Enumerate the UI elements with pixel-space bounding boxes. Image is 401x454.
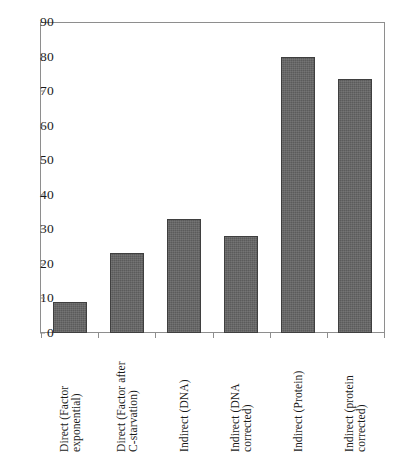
x-axis-labels: Direct (Factorexponential)Direct (Factor… [41,338,384,454]
x-axis-label: Direct (Factor afterC-starvation) [114,338,139,452]
bar-slot [98,23,155,333]
bar-slot [155,23,212,333]
bar [338,79,372,333]
x-axis-label-line: C-starvation) [127,338,139,452]
x-axis-label: Direct (Factorexponential) [57,338,82,452]
x-axis-label-line: Indirect (DNA [229,338,241,452]
x-axis-tick-mark [384,333,385,338]
bar-slot [270,23,327,333]
x-axis-label-slot: Direct (Factorexponential) [41,338,98,454]
x-axis-label-slot: Direct (Factor afterC-starvation) [98,338,155,454]
bar-slot [213,23,270,333]
bar-slot [327,23,384,333]
x-axis-label-line: Direct (Factor [57,338,69,452]
x-axis-label-line: Indirect (DNA) [178,338,190,452]
x-axis-label: Indirect (Protein) [292,338,304,452]
x-axis-label-slot: Indirect (DNA) [155,338,212,454]
x-axis-label: Indirect (DNAcorrected) [229,338,254,452]
x-axis-label-line: Indirect (protein [343,338,355,452]
x-axis-label-slot: Indirect (DNAcorrected) [213,338,270,454]
bar [110,253,144,334]
x-axis-label-line: Indirect (Protein) [292,338,304,452]
x-axis-label-line: exponential) [70,338,82,452]
x-axis-label: Indirect (proteincorrected) [343,338,368,452]
bar [53,302,87,333]
x-axis-label: Indirect (DNA) [178,338,190,452]
bar-chart: 9080706050403020100 Direct (Factorexpone… [0,0,401,454]
bar [281,57,315,333]
x-axis-label-line: corrected) [241,338,253,452]
bar [224,236,258,333]
x-axis-label-slot: Indirect (Protein) [270,338,327,454]
bar [167,219,201,333]
bar-slot [41,23,98,333]
bars-container [41,23,384,333]
x-axis-label-line: corrected) [355,338,367,452]
x-axis-label-line: Direct (Factor after [114,338,126,452]
x-axis-label-slot: Indirect (proteincorrected) [327,338,384,454]
